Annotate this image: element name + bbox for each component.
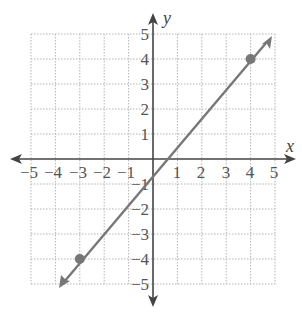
svg-text:−2: −2 bbox=[131, 200, 149, 219]
svg-text:2: 2 bbox=[197, 163, 206, 182]
svg-text:−3: −3 bbox=[69, 163, 87, 182]
svg-text:−3: −3 bbox=[131, 225, 149, 244]
svg-text:3: 3 bbox=[141, 75, 150, 94]
svg-text:3: 3 bbox=[222, 163, 231, 182]
svg-text:−5: −5 bbox=[20, 163, 38, 182]
svg-text:5: 5 bbox=[141, 25, 150, 44]
svg-text:−4: −4 bbox=[44, 163, 63, 182]
point-4-4 bbox=[246, 54, 256, 64]
svg-text:−5: −5 bbox=[131, 275, 149, 294]
svg-text:1: 1 bbox=[141, 125, 150, 144]
svg-text:2: 2 bbox=[141, 100, 150, 119]
svg-text:4: 4 bbox=[141, 50, 150, 69]
svg-text:5: 5 bbox=[270, 163, 279, 182]
coordinate-plane: x y −5 −4 −3 −2 −1 1 2 3 4 5 5 4 3 2 1 −… bbox=[0, 0, 302, 313]
data-line bbox=[59, 36, 272, 288]
svg-text:4: 4 bbox=[246, 163, 255, 182]
y-axis-label: y bbox=[161, 8, 171, 28]
svg-text:−4: −4 bbox=[131, 250, 150, 269]
point-neg3-neg4 bbox=[75, 254, 85, 264]
x-tick-labels: −5 −4 −3 −2 −1 1 2 3 4 5 bbox=[20, 163, 278, 182]
svg-text:1: 1 bbox=[173, 163, 182, 182]
x-axis-label: x bbox=[285, 136, 294, 156]
svg-text:−2: −2 bbox=[93, 163, 111, 182]
